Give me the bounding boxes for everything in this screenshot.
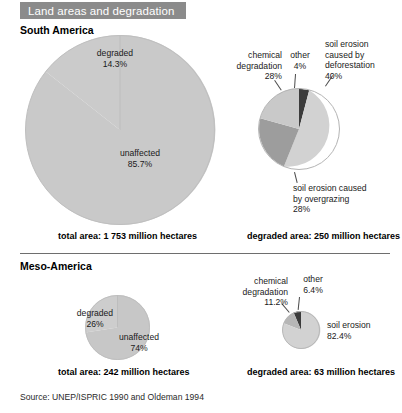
label-sa-chemical-pct: 28% [222,71,282,82]
leader-line-other-sa [294,74,296,88]
label-ma-total-degraded-pct: 26% [62,319,128,330]
leader-line-overgrazing-sa [294,172,298,183]
label-sa-chemical: chemical degradation 28% [222,50,282,82]
label-ma-chemical-l2: degradation [228,287,288,298]
source-note: Source: UNEP/ISPRIC 1990 and Oldeman 199… [20,392,204,402]
label-sa-total-degraded-pct: 14.3% [60,59,170,70]
label-ma-other-pct: 6.4% [293,285,333,296]
label-ma-soil-erosion-l1: soil erosion [327,320,399,331]
section-divider [20,253,390,254]
label-sa-chemical-l1: chemical [222,50,282,61]
label-sa-deforestation-l2: caused by [325,50,402,61]
label-sa-other-pct: 4% [283,61,317,72]
label-sa-deforestation: soil erosion caused by deforestation 40% [325,39,402,81]
page-title: Land areas and degradation [20,5,174,17]
caption-ma-degraded-area: degraded area: 63 million hectares [247,367,395,377]
label-ma-total-degraded-name: degraded [62,308,128,319]
label-ma-chemical: chemical degradation 11.2% [228,276,288,308]
leader-line-other-ma [298,297,300,310]
caption-sa-total-area: total area: 1 753 million hectares [58,231,197,241]
label-ma-total-unaffected-name: unaffected [103,332,175,343]
label-sa-chemical-l2: degradation [222,61,282,72]
caption-ma-total-area: total area: 242 million hectares [58,367,190,377]
label-sa-total-unaffected-pct: 85.7% [85,159,195,170]
label-sa-total-degraded: degraded 14.3% [60,48,170,69]
label-sa-overgrazing-l1: soil erosion caused [293,183,402,194]
label-ma-chemical-l1: chemical [228,276,288,287]
label-sa-overgrazing-l2: by overgrazing [293,194,402,205]
label-sa-overgrazing-pct: 28% [293,204,402,215]
pie-meso-america-degraded [282,311,320,349]
pie-south-america-degraded [258,88,340,170]
label-ma-soil-erosion: soil erosion 82.4% [327,320,399,341]
label-sa-total-degraded-name: degraded [60,48,170,59]
label-sa-other-name: other [283,50,317,61]
title-banner: Land areas and degradation [20,2,186,19]
infographic-canvas: Land areas and degradation South America… [0,0,402,413]
label-sa-total-unaffected-name: unaffected [85,148,195,159]
label-ma-total-degraded: degraded 26% [62,308,128,329]
label-ma-total-unaffected: unaffected 74% [103,332,175,353]
label-ma-soil-erosion-pct: 82.4% [327,331,399,342]
label-sa-deforestation-pct: 40% [325,71,402,82]
label-sa-total-unaffected: unaffected 85.7% [85,148,195,169]
label-sa-deforestation-l3: deforestation [325,60,402,71]
label-sa-overgrazing: soil erosion caused by overgrazing 28% [293,183,402,215]
label-sa-deforestation-l1: soil erosion [325,39,402,50]
label-sa-other: other 4% [283,50,317,71]
caption-sa-degraded-area: degraded area: 250 million hectares [247,231,400,241]
label-ma-other-name: other [293,274,333,285]
label-ma-other: other 6.4% [293,274,333,295]
label-ma-total-unaffected-pct: 74% [103,343,175,354]
label-ma-chemical-pct: 11.2% [228,297,288,308]
region-heading-meso-america: Meso-America [20,260,92,272]
